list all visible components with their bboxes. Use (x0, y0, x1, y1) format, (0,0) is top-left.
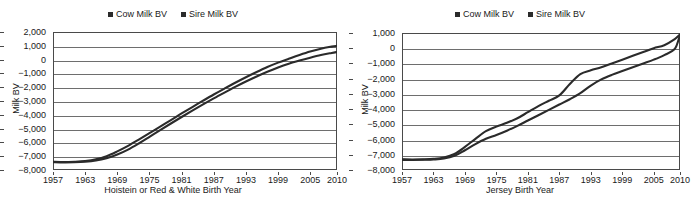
y-axis-tick-mark (0, 60, 4, 61)
y-axis-tick-label: −1,000 (367, 59, 395, 68)
x-axis-tick-label: 1963 (75, 175, 95, 185)
y-axis-tick-mark (349, 170, 353, 171)
x-axis-tick-mark (654, 172, 655, 175)
legend-label: Cow Milk BV (463, 9, 514, 19)
series-lines-holstein (53, 32, 337, 170)
legend-entry-cow-milk-bv: Cow Milk BV (108, 9, 167, 19)
legend-swatch-icon (108, 12, 113, 17)
y-axis-tick-mark (0, 87, 4, 88)
y-axis-tick-mark (349, 124, 353, 125)
dual-line-chart-figure: Cow Milk BV Sire Milk BV 2,0001,0000−1,0… (0, 0, 693, 204)
y-axis-tick-label: −1,000 (18, 69, 46, 78)
y-axis-tick-label: −2,000 (18, 83, 46, 92)
x-axis-tick-mark (53, 172, 54, 175)
x-axis-tick-label: 1981 (172, 175, 192, 185)
y-axis-tick-label: −4,000 (18, 110, 46, 119)
x-axis-tick-mark (182, 172, 183, 175)
x-axis-tick-mark (622, 172, 623, 175)
x-axis-tick-label: 1993 (581, 175, 601, 185)
x-axis-tick-label: 1981 (518, 175, 538, 185)
y-axis-tick-mark (0, 129, 4, 130)
x-axis-tick-label: 1987 (204, 175, 224, 185)
legend-swatch-icon (181, 12, 186, 17)
x-axis-tick-mark (680, 172, 681, 175)
x-axis-tick-label: 1969 (107, 175, 127, 185)
y-axis-tick-label: −5,000 (367, 120, 395, 129)
x-axis-tick-mark (214, 172, 215, 175)
y-axis-tick-label: −8,000 (367, 166, 395, 175)
x-axis-tick-mark (591, 172, 592, 175)
x-axis-title-holstein: Hoistein or Red & White Birth Year (0, 185, 346, 195)
legend-holstein: Cow Milk BV Sire Milk BV (0, 9, 346, 19)
x-axis-tick-label: 1999 (268, 175, 288, 185)
y-axis-tick-label: −4,000 (367, 105, 395, 114)
legend-label: Sire Milk BV (536, 9, 585, 19)
y-axis-tick-label: 0 (41, 55, 46, 64)
y-axis-tick-mark (0, 101, 4, 102)
legend-label: Sire Milk BV (189, 9, 238, 19)
y-axis-tick-label: −8,000 (18, 166, 46, 175)
plot-area-jersey (402, 33, 680, 170)
x-axis-tick-mark (528, 172, 529, 175)
legend-swatch-icon (528, 12, 533, 17)
x-axis-tick-label: 1957 (43, 175, 63, 185)
x-axis-tick-label: 2010 (670, 175, 690, 185)
y-axis-tick-mark (349, 140, 353, 141)
y-axis-tick-label: −6,000 (18, 138, 46, 147)
y-axis-tick-label: −7,000 (18, 152, 46, 161)
y-axis-tick-mark (0, 170, 4, 171)
legend-entry-sire-milk-bv: Sire Milk BV (528, 9, 585, 19)
x-axis-tick-label: 1975 (486, 175, 506, 185)
y-axis-tick-labels-holstein: 2,0001,0000−1,000−2,000−3,000−4,000−5,00… (0, 32, 49, 170)
x-axis-tick-label: 1963 (423, 175, 443, 185)
y-axis-tick-mark (349, 109, 353, 110)
x-axis-tick-label: 2005 (644, 175, 664, 185)
series-line (53, 52, 337, 162)
chart-panel-holstein: Cow Milk BV Sire Milk BV 2,0001,0000−1,0… (0, 0, 346, 204)
y-axis-tick-label: 1,000 (23, 41, 46, 50)
series-lines-jersey (402, 33, 680, 170)
x-axis-tick-mark (433, 172, 434, 175)
series-line (402, 35, 680, 160)
x-axis-tick-label: 1975 (139, 175, 159, 185)
x-axis-tick-mark (559, 172, 560, 175)
y-axis-tick-mark (349, 48, 353, 49)
x-axis-tick-label: 2010 (327, 175, 347, 185)
y-axis-tick-mark (349, 155, 353, 156)
y-axis-tick-mark (0, 32, 4, 33)
y-axis-tick-mark (0, 156, 4, 157)
y-axis-tick-mark (349, 33, 353, 34)
x-axis-tick-mark (310, 172, 311, 175)
x-axis-tick-mark (85, 172, 86, 175)
x-axis-tick-label: 1969 (455, 175, 475, 185)
y-axis-tick-mark (0, 115, 4, 116)
x-axis-tick-label: 1987 (549, 175, 569, 185)
x-axis-tick-label: 1999 (612, 175, 632, 185)
y-axis-tick-labels-jersey: 1,0000−1,000−2,000−3,000−4,000−5,000−6,0… (349, 33, 398, 170)
y-axis-tick-label: 2,000 (23, 28, 46, 37)
x-axis-tick-mark (465, 172, 466, 175)
y-axis-tick-label: −6,000 (367, 135, 395, 144)
x-axis-tick-mark (117, 172, 118, 175)
y-axis-tick-label: −5,000 (18, 124, 46, 133)
y-axis-title-jersey: Milk BV (361, 70, 370, 130)
x-axis-tick-label: 2005 (300, 175, 320, 185)
y-axis-tick-label: 0 (390, 44, 395, 53)
x-axis-tick-label: 1957 (392, 175, 412, 185)
y-axis-tick-mark (0, 142, 4, 143)
y-axis-tick-mark (349, 94, 353, 95)
x-axis-tick-mark (496, 172, 497, 175)
y-axis-tick-label: −7,000 (367, 150, 395, 159)
y-axis-tick-mark (0, 46, 4, 47)
x-axis-tick-mark (337, 172, 338, 175)
x-axis-tick-mark (278, 172, 279, 175)
legend-entry-sire-milk-bv: Sire Milk BV (181, 9, 238, 19)
y-axis-tick-label: −2,000 (367, 74, 395, 83)
y-axis-title-holstein: Milk BV (12, 69, 21, 129)
series-line (53, 46, 337, 162)
y-axis-tick-mark (349, 79, 353, 80)
y-axis-tick-label: −3,000 (367, 89, 395, 98)
legend-label: Cow Milk BV (116, 9, 167, 19)
legend-jersey: Cow Milk BV Sire Milk BV (347, 9, 693, 19)
x-axis-tick-label: 1993 (236, 175, 256, 185)
